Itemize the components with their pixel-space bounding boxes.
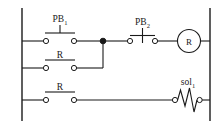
pb2-right-terminal: [152, 38, 157, 43]
pb1-label: PB1: [53, 14, 68, 26]
ladder-diagram: R PB1 PB2 R R sol1: [0, 0, 223, 128]
r-contact3-right-terminal: [71, 97, 76, 102]
r-contact3-label: R: [57, 82, 64, 92]
pb2-left-terminal: [127, 38, 132, 43]
pb1-left-terminal: [43, 38, 48, 43]
r-seal-label: R: [57, 50, 64, 60]
relay-coil-r-label: R: [186, 37, 192, 47]
solenoid-right-terminal: [197, 97, 202, 102]
solenoid-zigzag: [178, 88, 197, 112]
r-contact3-left-terminal: [43, 97, 48, 102]
pb2-label: PB2: [135, 17, 150, 29]
r-seal-left-terminal: [43, 65, 48, 70]
solenoid-left-terminal: [172, 97, 177, 102]
sol1-label: sol1: [181, 77, 195, 89]
pb1-right-terminal: [71, 38, 76, 43]
ladder-svg: R PB1 PB2 R R sol1: [0, 0, 223, 128]
r-seal-right-terminal: [71, 65, 76, 70]
